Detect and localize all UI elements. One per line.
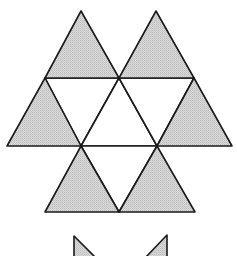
shaded-top-right-triangle — [119, 11, 194, 78]
partial-shapes — [74, 235, 167, 256]
shaded-partial-right-triangle — [146, 235, 167, 256]
shaded-top-left-triangle — [45, 11, 119, 78]
shaded-partial-left-triangle — [74, 236, 95, 256]
triangle-diagram — [0, 0, 237, 256]
